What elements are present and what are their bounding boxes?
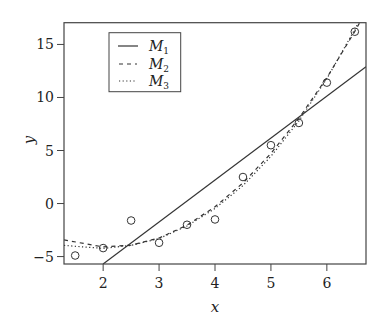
- x-tick-label: 6: [322, 275, 331, 291]
- x-tick-label: 3: [155, 275, 164, 291]
- y-axis: −5051015: [33, 36, 64, 264]
- y-tick-label: 10: [36, 89, 54, 105]
- y-tick-label: 0: [45, 196, 54, 212]
- legend-box: [109, 33, 181, 92]
- data-point: [211, 216, 219, 224]
- x-axis-label: x: [211, 298, 220, 316]
- x-axis: 23456: [99, 264, 332, 291]
- y-tick-label: 5: [45, 143, 54, 159]
- data-point: [239, 173, 247, 181]
- y-axis-label: y: [20, 135, 38, 145]
- data-point: [295, 119, 303, 127]
- y-tick-label: 15: [36, 36, 54, 52]
- legend: M1 M2 M3: [109, 33, 181, 92]
- series-m1-line: [103, 67, 366, 264]
- chart: 23456 −5051015 x y M1 M2 M3: [0, 0, 385, 330]
- data-point: [323, 79, 331, 87]
- x-tick-label: 5: [266, 275, 275, 291]
- data-point: [155, 239, 163, 247]
- data-point: [71, 252, 79, 260]
- data-point: [127, 217, 135, 225]
- x-tick-label: 2: [99, 275, 108, 291]
- y-tick-label: −5: [33, 249, 54, 265]
- x-tick-label: 4: [211, 275, 220, 291]
- data-point: [267, 141, 275, 149]
